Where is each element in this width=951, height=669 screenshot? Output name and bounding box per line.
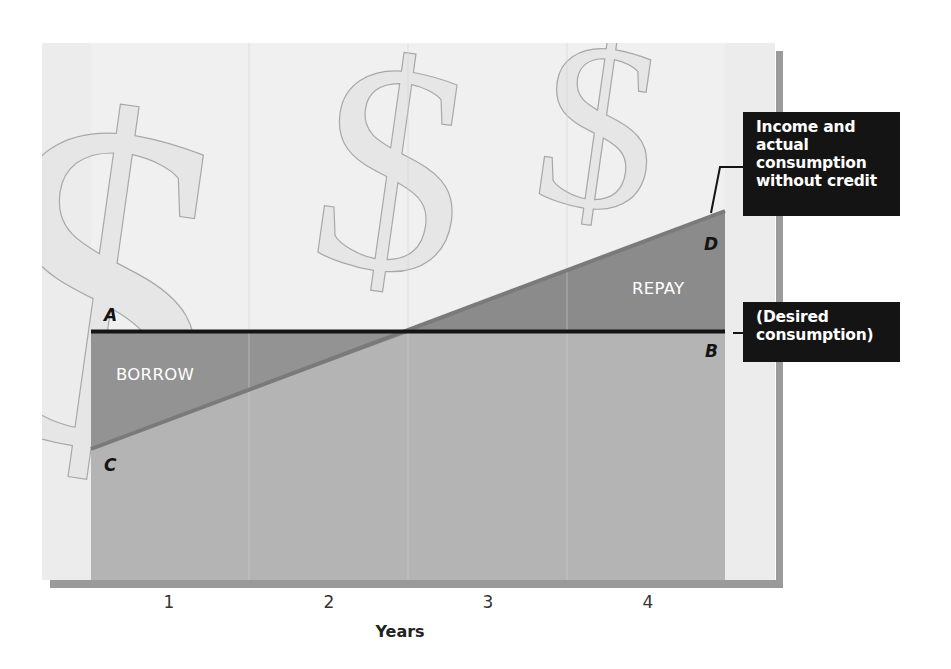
income-callout-line-1: Income and xyxy=(756,118,892,136)
x-tick-3: 3 xyxy=(483,592,494,612)
repay-label: REPAY xyxy=(632,279,685,298)
desired-callout-line-1: (Desired xyxy=(756,308,892,326)
desired-callout: (Desired consumption) xyxy=(743,302,900,362)
x-tick-2: 2 xyxy=(324,592,335,612)
point-label-b: B xyxy=(705,341,718,361)
desired-callout-line-2: consumption) xyxy=(756,326,892,344)
point-label-d: D xyxy=(704,234,718,254)
point-label-c: C xyxy=(104,455,117,475)
income-callout-line-3: consumption xyxy=(756,154,892,172)
borrow-label: BORROW xyxy=(116,365,194,384)
income-callout-line-4: without credit xyxy=(756,172,892,190)
x-axis-title: Years xyxy=(375,622,424,641)
chart-figure: $ $ $ A B C D BORROW REPAY I xyxy=(0,0,951,669)
x-tick-4: 4 xyxy=(643,592,654,612)
x-tick-1: 1 xyxy=(164,592,175,612)
point-label-a: A xyxy=(102,305,117,325)
panel-shadow-bottom xyxy=(50,580,783,588)
income-callout-line-2: actual xyxy=(756,136,892,154)
income-callout: Income and actual consumption without cr… xyxy=(743,112,900,216)
